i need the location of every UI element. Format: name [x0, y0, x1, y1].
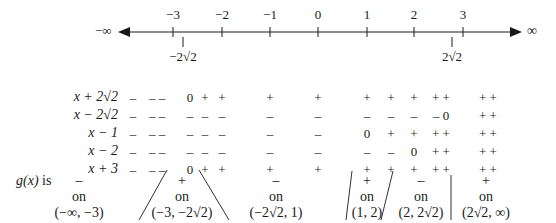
sign-cell: – – [149, 126, 165, 142]
sign-cell: + + [432, 162, 450, 178]
neg-infinity-label: −∞ [95, 23, 112, 39]
sign-cell: 0 [187, 162, 194, 178]
factor-label: x + 3 [88, 161, 118, 177]
sign-cell: + + [432, 144, 450, 160]
sign-cell: – [202, 144, 209, 160]
sign-cell: + [218, 90, 225, 106]
g-row-label-suffix: is [42, 173, 51, 188]
sign-cell: – [130, 108, 137, 124]
g-on-text: on [360, 189, 374, 205]
sign-cell: + [218, 162, 225, 178]
factor-label: x − 2 [88, 143, 118, 159]
g-sign: – [273, 173, 280, 189]
sign-cell: + [314, 162, 321, 178]
sign-cell: – – [149, 162, 165, 178]
g-on-text: on [269, 189, 283, 205]
sign-cell: + + [479, 144, 497, 160]
sign-cell: + [387, 162, 394, 178]
sign-cell: – [388, 108, 395, 124]
sign-cell: – [219, 144, 226, 160]
g-sign: + [363, 173, 371, 189]
sign-cell: – [130, 90, 137, 106]
sign-cell: – [315, 108, 322, 124]
g-interval-text: (1, 2) [352, 205, 382, 221]
g-interval-text: (2, 2√2) [398, 205, 443, 221]
g-interval-text: (−2√2, 1) [250, 205, 303, 221]
sign-cell: + + [432, 90, 450, 106]
sign-cell: – [130, 144, 137, 160]
sign-cell: – [267, 144, 274, 160]
factor-label: x − 2√2 [74, 107, 118, 123]
tick-label: 1 [364, 7, 371, 23]
g-on-text: on [72, 189, 86, 205]
sign-cell: – 0 [433, 108, 449, 124]
g-on-text: on [479, 189, 493, 205]
sign-cell: 0 [187, 90, 194, 106]
sign-cell: 0 [411, 144, 418, 160]
factor-label: x + 2√2 [74, 89, 118, 105]
sign-cell: – [202, 108, 209, 124]
tick-label: 0 [315, 7, 322, 23]
root-label: 2√2 [442, 49, 462, 65]
sign-cell: – [364, 144, 371, 160]
sign-cell: – [130, 126, 137, 142]
g-row-label: g(x) is [16, 173, 51, 189]
sign-cell: + [363, 90, 370, 106]
sign-cell: + [387, 126, 394, 142]
g-on-text: on [414, 189, 428, 205]
g-on-text: on [175, 189, 189, 205]
right-arrow-icon [510, 27, 522, 37]
sign-cell: – – [149, 90, 165, 106]
g-interval-text: (−3, −2√2) [152, 205, 213, 221]
sign-cell: – [187, 126, 194, 142]
sign-cell: – [388, 144, 395, 160]
g-sign: – [418, 173, 425, 189]
sign-cell: – [219, 126, 226, 142]
sign-cell: – [187, 144, 194, 160]
factor-label: x − 1 [88, 125, 118, 141]
sign-cell: – [411, 108, 418, 124]
tick-label: −2 [215, 7, 229, 23]
left-arrow-icon [118, 27, 130, 37]
sign-cell: + + [479, 126, 497, 142]
sign-cell: – [315, 126, 322, 142]
g-sign: + [482, 173, 490, 189]
sign-cell: + [410, 90, 417, 106]
g-sign: – [76, 173, 83, 189]
sign-cell: + [410, 126, 417, 142]
infinity-label: ∞ [527, 23, 537, 39]
sign-cell: + + [479, 108, 497, 124]
sign-cell: + [201, 162, 208, 178]
separator-rise [381, 171, 393, 220]
tick-label: −3 [166, 7, 180, 23]
tick-label: 3 [460, 7, 467, 23]
g-sign: + [178, 173, 186, 189]
sign-cell: + [314, 90, 321, 106]
sign-cell: – [202, 126, 209, 142]
g-interval-text: (2√2, ∞) [462, 205, 510, 221]
sign-cell: + [201, 90, 208, 106]
sign-cell: – – [149, 108, 165, 124]
sign-cell: + + [479, 90, 497, 106]
sign-cell: + + [432, 126, 450, 142]
tick-label: 2 [411, 7, 418, 23]
sign-cell: – [364, 108, 371, 124]
sign-cell: – [130, 162, 137, 178]
sign-cell: – [315, 144, 322, 160]
sign-cell: – [267, 108, 274, 124]
sign-cell: – [267, 126, 274, 142]
sign-cell: 0 [364, 126, 371, 142]
sign-cell: – – [149, 144, 165, 160]
sign-cell: + [266, 90, 273, 106]
sign-cell: – [187, 108, 194, 124]
g-function-name: g(x) [16, 173, 39, 188]
sign-cell: + [387, 90, 394, 106]
sign-cell: – [219, 108, 226, 124]
root-label: −2√2 [169, 49, 196, 65]
g-interval-text: (−∞, −3) [54, 205, 103, 221]
tick-label: −1 [263, 7, 277, 23]
